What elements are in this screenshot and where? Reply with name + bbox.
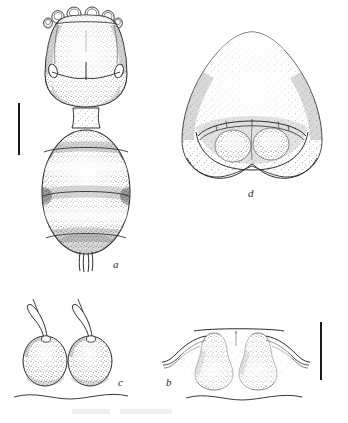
illustration-plate: a d c b xyxy=(0,0,348,423)
plate-artwork xyxy=(0,0,348,423)
figure-c-contour-line xyxy=(14,394,128,399)
figure-a-dorsal-habitus xyxy=(35,7,137,272)
figure-a-pedicel xyxy=(72,108,100,128)
figure-d-genital-plate xyxy=(182,24,322,178)
scale-bar-a xyxy=(18,103,20,155)
figure-b-pyriform-pair xyxy=(162,329,310,400)
figure-b-contour-line xyxy=(186,395,302,400)
figure-label-a: a xyxy=(113,259,119,270)
figure-label-b: b xyxy=(166,377,172,388)
figure-c-ovoid-bodies xyxy=(14,299,128,399)
figure-a-idiosoma xyxy=(45,10,127,110)
scale-bar-b xyxy=(320,322,322,380)
figure-label-c: c xyxy=(118,377,123,388)
figure-label-d: d xyxy=(248,188,254,199)
scan-smudge-artifact xyxy=(72,409,172,414)
figure-a-opisthosoma xyxy=(35,130,137,272)
